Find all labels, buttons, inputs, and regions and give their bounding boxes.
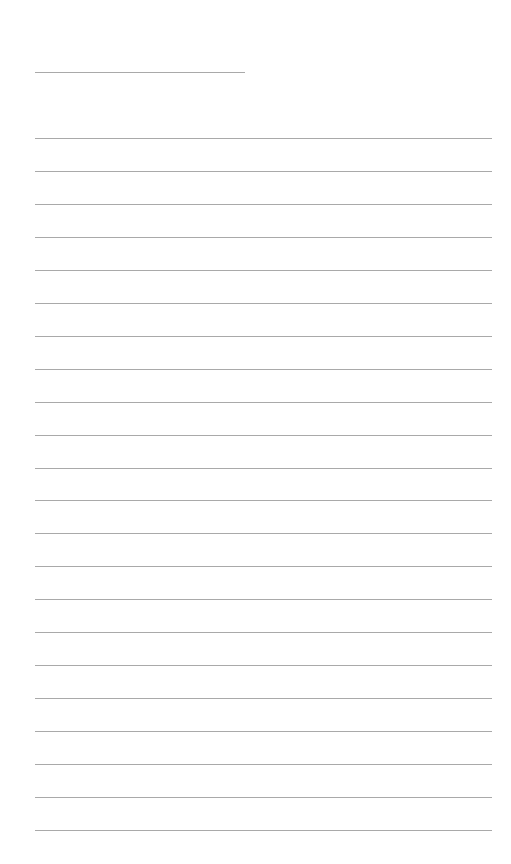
ruled-line <box>35 204 492 205</box>
ruled-line <box>35 500 492 501</box>
ruled-line <box>35 665 492 666</box>
ruled-line <box>35 566 492 567</box>
ruled-line <box>35 698 492 699</box>
ruled-line <box>35 237 492 238</box>
ruled-line <box>35 303 492 304</box>
ruled-line <box>35 764 492 765</box>
ruled-line <box>35 270 492 271</box>
ruled-line <box>35 402 492 403</box>
ruled-line <box>35 138 492 139</box>
ruled-line <box>35 830 492 831</box>
ruled-line <box>35 435 492 436</box>
ruled-line <box>35 336 492 337</box>
ruled-line <box>35 632 492 633</box>
ruled-line <box>35 797 492 798</box>
ruled-line <box>35 468 492 469</box>
header-name-line <box>35 72 245 73</box>
ruled-line <box>35 171 492 172</box>
ruled-line <box>35 533 492 534</box>
ruled-line <box>35 599 492 600</box>
ruled-line <box>35 731 492 732</box>
ruled-line <box>35 369 492 370</box>
